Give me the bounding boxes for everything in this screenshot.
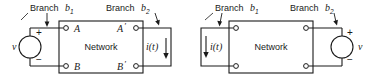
branch-b1-text-right: Branch: [215, 3, 244, 13]
branch-b2-text-left: Branch: [106, 3, 135, 13]
branch-b2-subscript-right: 2: [329, 8, 334, 15]
branch-b1-subscript-right: 1: [255, 8, 259, 15]
terminal-label-b-prime-group: B ′: [117, 59, 127, 72]
minus-sign-right: −: [347, 54, 353, 65]
plus-sign-left: +: [36, 27, 42, 38]
network-label-left: Network: [84, 42, 118, 52]
current-label-left: i(t): [146, 41, 159, 53]
plus-sign-right: +: [347, 27, 353, 38]
terminal-label-a-prime: A: [116, 23, 124, 34]
branch-b2-pointer-head-left: [155, 20, 160, 26]
branch-b2-left: Branch b 2: [106, 2, 160, 26]
current-label-right: i(t): [210, 41, 223, 53]
prime-mark-a: ′: [124, 21, 127, 31]
branch-b2-pointer-head-right: [333, 20, 338, 26]
terminal-node-right-tr: [304, 26, 309, 31]
branch-b2-right: Branch b 2: [290, 2, 338, 26]
minus-sign-left: −: [36, 54, 42, 65]
prime-mark-b: ′: [124, 59, 127, 69]
branch-b1-leader-left: [21, 13, 28, 20]
branch-b1-right: Branch b 1: [205, 2, 259, 27]
source-label-right: v: [358, 41, 363, 52]
terminal-node-a: [64, 26, 69, 31]
terminal-node-b: [64, 64, 69, 69]
circuit-diagram-svg: Network + − v A B A ′ B ′: [0, 0, 372, 83]
terminal-label-a: A: [73, 23, 81, 34]
branch-b1-pointer-head-left: [45, 22, 50, 28]
terminal-label-b: B: [74, 61, 80, 72]
terminal-label-b-prime: B: [117, 61, 123, 72]
right-circuit: Network i(t) + − v Branch b 1: [201, 2, 363, 73]
branch-b1-pointer-head-right: [217, 21, 222, 27]
current-arrow-head-left: [163, 53, 168, 59]
terminal-label-a-prime-group: A ′: [116, 21, 127, 34]
source-label-left: v: [12, 41, 17, 52]
terminal-node-a-prime: [134, 26, 139, 31]
figure-root: Network + − v A B A ′ B ′: [0, 0, 372, 83]
terminal-node-b-prime: [134, 64, 139, 69]
branch-b1-left: Branch b 1: [21, 2, 74, 27]
branch-b1-text-left: Branch: [30, 3, 59, 13]
current-arrow-head-right: [203, 52, 208, 58]
terminal-node-right-bl: [234, 64, 239, 69]
left-circuit: Network + − v A B A ′ B ′: [12, 2, 171, 73]
branch-b1-subscript-left: 1: [70, 8, 74, 15]
terminal-node-right-tl: [234, 26, 239, 31]
network-label-right: Network: [254, 42, 288, 52]
terminal-node-right-br: [304, 64, 309, 69]
branch-b2-subscript-left: 2: [145, 8, 150, 15]
branch-b2-text-right: Branch: [290, 3, 319, 13]
branch-b1-leader-right: [205, 13, 213, 20]
